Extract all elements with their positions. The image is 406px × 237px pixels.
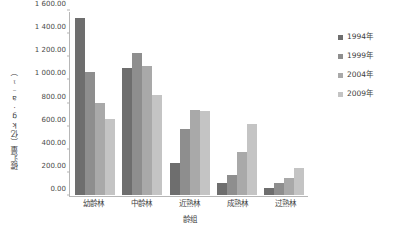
legend-label: 1999年 — [347, 52, 373, 60]
bar — [274, 183, 284, 195]
y-axis-title-text: 碳汇量（亿kg·a⁻¹） — [11, 68, 19, 170]
x-axis-tick-label: 幼龄林 — [70, 200, 118, 208]
bar — [284, 178, 294, 195]
y-axis-tick-mark — [67, 195, 70, 196]
bar-group — [71, 12, 118, 195]
bar-group — [166, 12, 213, 195]
bar — [95, 103, 105, 196]
legend-item[interactable]: 2009年 — [338, 90, 373, 98]
bar — [142, 66, 152, 195]
bar — [227, 175, 237, 195]
legend-label: 2004年 — [347, 71, 373, 79]
bar-groups — [71, 12, 308, 195]
bar — [122, 68, 132, 195]
y-axis-title: 碳汇量（亿kg·a⁻¹） — [4, 68, 26, 170]
legend-swatch-icon — [338, 54, 343, 59]
bar — [294, 168, 304, 195]
y-axis-tick-mark — [67, 79, 70, 80]
bar — [217, 183, 227, 195]
x-axis-title: 龄组 — [70, 216, 309, 224]
y-axis-tick-label: 400.00 — [42, 139, 67, 146]
bar-group — [118, 12, 165, 195]
y-axis-tick-mark — [67, 125, 70, 126]
y-axis-tick-label: 1 200.00 — [35, 47, 66, 54]
bar-chart: 碳汇量（亿kg·a⁻¹） 0.00200.00400.00600.00800.0… — [0, 0, 406, 237]
y-axis-tick-label: 1 000.00 — [35, 70, 66, 77]
legend-label: 2009年 — [347, 90, 373, 98]
y-axis-tick-label: 200.00 — [42, 162, 67, 169]
y-axis-tick-mark — [67, 102, 70, 103]
bar-group — [213, 12, 260, 195]
legend-item[interactable]: 1999年 — [338, 52, 373, 60]
chart-legend: 1994年1999年2004年2009年 — [338, 33, 373, 98]
y-axis-tick-label: 600.00 — [42, 116, 67, 123]
x-axis-tick-label: 过熟林 — [261, 200, 309, 208]
y-axis-tick-mark — [67, 33, 70, 34]
bar — [152, 95, 162, 195]
y-axis-tick-mark — [67, 56, 70, 57]
bar — [75, 18, 85, 195]
bar — [170, 163, 180, 195]
x-axis-tick-label: 近熟林 — [166, 200, 214, 208]
bar — [247, 124, 257, 195]
bar — [105, 119, 115, 195]
y-axis-tick-label: 0.00 — [50, 186, 66, 193]
bar-group — [261, 12, 308, 195]
y-axis-tick-mark — [67, 171, 70, 172]
bar — [237, 152, 247, 195]
y-axis-tick-mark — [67, 10, 70, 11]
bar — [85, 72, 95, 195]
bar — [132, 53, 142, 195]
bar — [190, 110, 200, 195]
bar — [200, 111, 210, 195]
legend-item[interactable]: 1994年 — [338, 33, 373, 41]
legend-swatch-icon — [338, 73, 343, 78]
y-axis-tick-label: 800.00 — [42, 93, 67, 100]
x-axis-tick-label: 成熟林 — [213, 200, 261, 208]
y-axis-tick-label: 1 600.00 — [35, 1, 66, 8]
legend-swatch-icon — [338, 92, 343, 97]
bar — [180, 129, 190, 195]
bar — [264, 188, 274, 195]
y-axis-tick-mark — [67, 148, 70, 149]
legend-label: 1994年 — [347, 33, 373, 41]
legend-swatch-icon — [338, 35, 343, 40]
x-axis-tick-label: 中龄林 — [118, 200, 166, 208]
y-axis-tick-label: 1 400.00 — [35, 24, 66, 31]
plot-area: 0.00200.00400.00600.00800.001 000.001 20… — [69, 12, 308, 197]
x-axis-tick-labels: 幼龄林中龄林近熟林成熟林过熟林 — [70, 200, 309, 208]
legend-item[interactable]: 2004年 — [338, 71, 373, 79]
